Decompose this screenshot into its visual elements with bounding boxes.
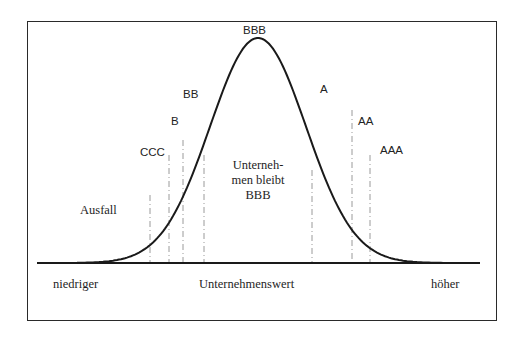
rating-label-ccc: CCC [140, 147, 165, 159]
center-annotation: Unterneh- men bleibt BBB [218, 158, 298, 203]
rating-label-aaa: AAA [380, 145, 403, 157]
rating-label-a: A [320, 84, 328, 96]
axis-right-label: höher [431, 278, 459, 291]
axis-center-label: Unternehmenswert [199, 278, 294, 291]
axis-left-label: niedriger [53, 278, 98, 291]
rating-label-bb: BB [183, 89, 198, 101]
center-annotation-line-2: men bleibt [218, 173, 298, 188]
center-annotation-line-3: BBB [218, 188, 298, 203]
center-annotation-line-1: Unterneh- [218, 158, 298, 173]
diagram-canvas: CCCBBBBBBAAAAAA Ausfall Unterneh- men bl… [0, 0, 525, 337]
rating-label-b: B [171, 116, 179, 128]
rating-label-aa: AA [358, 116, 373, 128]
rating-label-bbb: BBB [243, 25, 266, 37]
default-label: Ausfall [80, 204, 117, 217]
